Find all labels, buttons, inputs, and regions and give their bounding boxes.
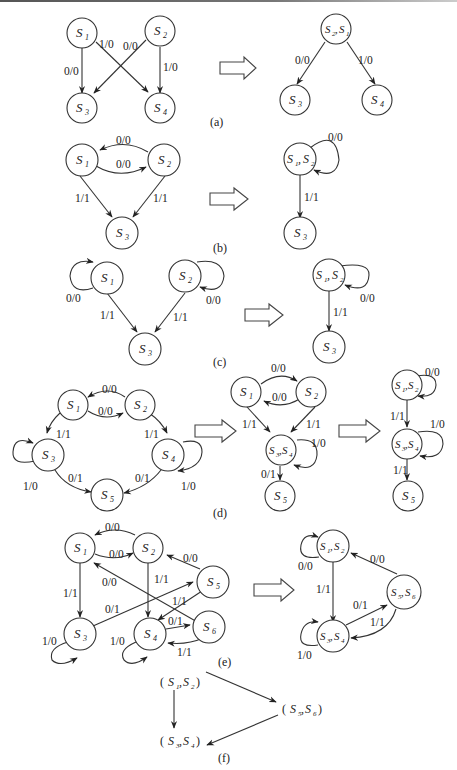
edge-label: 0/1 (68, 472, 83, 484)
state-label: S (183, 734, 189, 748)
state-sub: 2 (191, 683, 195, 691)
paren: ) (196, 675, 200, 689)
state-label: S (139, 341, 146, 356)
edge-label: 0/0 (64, 65, 79, 77)
transform-arrow-icon (254, 579, 294, 601)
edge-label: 0/0 (360, 292, 375, 304)
state-label: S (303, 152, 309, 166)
panel-c: S1 S2 S3 0/0 0/0 1/1 1/1 (c) S1,S2 S3 0/… (66, 259, 375, 369)
edge-s12-self (301, 536, 319, 558)
paren: ( (160, 734, 164, 748)
edge-label: 1/1 (63, 587, 78, 599)
state-sub: 4 (341, 637, 345, 645)
state-label: S (405, 586, 411, 598)
edge-label: 1/1 (242, 418, 257, 430)
state-sub: 2 (415, 386, 419, 394)
panel-d-right: S1,S2 S3,S4 S5 0/0 1/1 1/0 1/1 (390, 366, 445, 511)
panel-caption: (b) (213, 241, 227, 255)
state-label: S (144, 626, 151, 641)
node-s5s6: ( S5,S6 ) (282, 702, 322, 718)
edge-label: 1/1 (153, 192, 168, 204)
panel-e: S1 S2 S5 S3 S4 S6 0/0 0/0 0/0 0/0 1/1 1/… (42, 521, 421, 669)
edge-s34-self (301, 622, 318, 646)
edge-label: 1/0 (99, 38, 114, 50)
state-label: S (203, 619, 210, 634)
edge-label: 1/1 (177, 646, 192, 658)
state-sep: , (330, 540, 333, 552)
state-sub: 1 (85, 160, 89, 169)
state-sub: 4 (171, 455, 175, 464)
edge-label: 0/1 (105, 603, 120, 615)
state-label: S (168, 734, 174, 748)
edge-label: 1/1 (56, 428, 71, 440)
panel-e-left: S1 S2 S5 S3 S4 S6 0/0 0/0 0/0 0/0 1/1 1/… (42, 521, 229, 664)
paren: ) (318, 702, 322, 716)
state-sep: , (179, 734, 182, 748)
state-label: S (320, 630, 326, 642)
panel-d-middle: S1 S2 S3,S4 S5 0/0 0/0 1/1 1/1 1/0 0/1 (231, 362, 326, 511)
state-sep: , (298, 152, 301, 166)
edge-label: 0/0 (98, 405, 113, 417)
state-sub: 2 (143, 405, 147, 414)
edge-label: 0/0 (271, 362, 286, 374)
state-sub: 2 (151, 548, 155, 557)
edge-label: 1/1 (173, 311, 188, 323)
edge-s1-self (70, 261, 93, 290)
edge-label: 1/1 (144, 428, 159, 440)
state-label: S (339, 23, 345, 35)
state-label: S (395, 438, 401, 450)
state-label: S (158, 152, 165, 167)
edge-label: 0/0 (328, 131, 343, 143)
state-label: S (74, 540, 81, 555)
edge-label: 0/1 (261, 468, 276, 480)
state-label: S (316, 268, 322, 282)
state-sub: 3 (331, 347, 336, 356)
state-sub: 2 (163, 31, 167, 40)
state-sep: , (179, 675, 182, 689)
edge-s1-s2 (261, 376, 297, 384)
state-label: S (240, 384, 247, 399)
state-sep: , (327, 268, 330, 282)
panel-d: S1 S2 S3 S4 S5 0/0 0/0 1/1 1/1 1/0 1/0 0… (13, 362, 445, 520)
panel-a-right: S2,S1 S3 S4 0/0 1/0 (280, 14, 392, 115)
state-sub: 6 (412, 593, 416, 601)
state-label: S (320, 540, 326, 552)
panel-b: S1 S2 S3 0/0 0/0 1/1 1/1 (b) S1,S2 S3 0/… (66, 131, 343, 255)
panel-c-left: S1 S2 S3 0/0 0/0 1/1 1/1 (66, 260, 224, 365)
state-label: S (287, 152, 293, 166)
state-sub: 4 (163, 108, 167, 117)
edge-label: 0/0 (102, 383, 117, 395)
state-label: S (395, 379, 401, 391)
edge-s56-s34 (207, 715, 278, 745)
edge-label: 1/1 (393, 464, 408, 476)
panel-caption: (e) (218, 655, 231, 669)
edge-label: 0/1 (168, 615, 183, 627)
edge-label: 0/0 (109, 548, 124, 560)
state-sub: 4 (289, 451, 293, 459)
state-sub: 6 (313, 710, 317, 718)
panel-caption: (a) (210, 115, 223, 129)
state-label: S (334, 630, 340, 642)
state-label: S (154, 100, 161, 115)
state-reduction-diagram: S1 S2 S3 S4 0/0 1/0 0/0 1/0 (a) S2,S1 S3… (0, 0, 457, 770)
panel-c-right: S1,S2 S3 0/0 1/1 (313, 259, 375, 363)
panel-a: S1 S2 S3 S4 0/0 1/0 0/0 1/0 (a) S2,S1 S3… (64, 14, 392, 129)
node-s1s2: ( S1,S2 ) (160, 675, 200, 691)
state-sub: 4 (153, 634, 157, 643)
state-sep: , (301, 702, 304, 716)
state-label: S (305, 702, 311, 716)
edge-label: 0/0 (370, 553, 385, 565)
state-sub: 5 (283, 496, 287, 505)
edge-label: 1/0 (42, 635, 57, 647)
state-sub: 2 (341, 547, 345, 555)
state-sep: , (330, 630, 333, 642)
state-label: S (101, 270, 108, 285)
transform-arrow-icon (339, 420, 380, 442)
state-sub: 5 (411, 496, 415, 505)
state-sub: 3 (297, 100, 302, 109)
state-sub: 3 (84, 108, 89, 117)
state-label: S (334, 540, 340, 552)
edge-label: 1/0 (110, 635, 125, 647)
panel-a-left: S1 S2 S3 S4 0/0 1/0 0/0 1/0 (64, 16, 178, 123)
edge-label: 0/0 (116, 134, 131, 146)
